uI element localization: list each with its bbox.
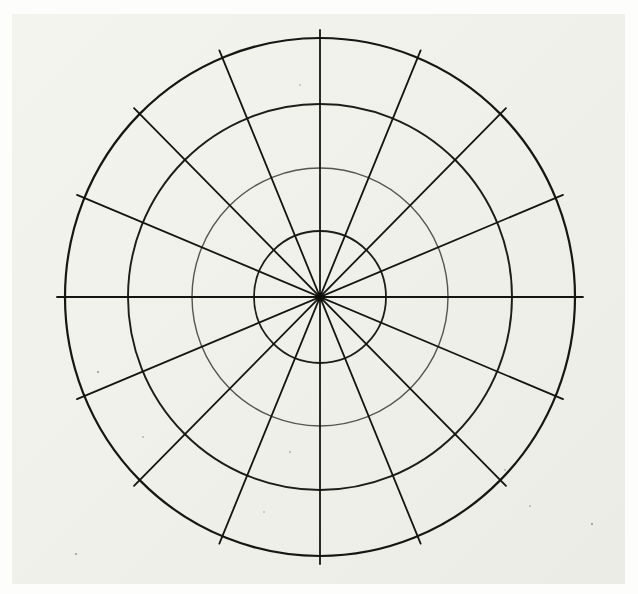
center-point — [316, 293, 324, 301]
origin-dot — [316, 293, 324, 301]
polar-grid-diagram — [0, 0, 638, 594]
paper-specks — [75, 84, 593, 555]
